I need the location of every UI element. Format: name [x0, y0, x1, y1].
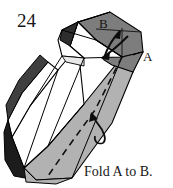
- figure-number: 24: [17, 11, 36, 30]
- figure-canvas: 24 B A Fold A to B.: [0, 0, 173, 188]
- label-b: B: [99, 17, 108, 30]
- label-a: A: [143, 50, 152, 63]
- figure-caption: Fold A to B.: [84, 165, 152, 179]
